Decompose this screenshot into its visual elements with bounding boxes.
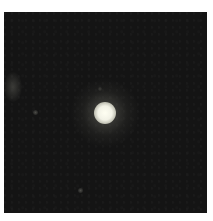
faint-star [33, 110, 38, 115]
faint-star [78, 188, 83, 193]
faint-source-left-edge [4, 72, 22, 102]
bright-star [94, 102, 116, 124]
sky-image [4, 12, 207, 213]
